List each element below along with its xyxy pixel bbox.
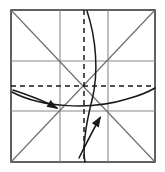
origami-diagram: [0, 0, 165, 172]
origami-crease-pattern-svg: [0, 0, 165, 172]
